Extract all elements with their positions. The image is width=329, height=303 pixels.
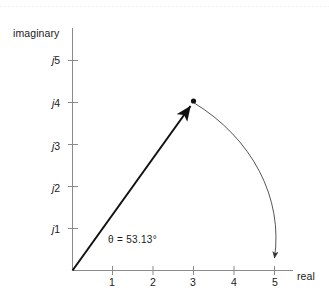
imaginary-tick-label-j4: j4: [52, 98, 60, 109]
complex-plane-figure: imaginary real j5 j4 j3 j2 j1 1 2 3 4 5 …: [0, 0, 329, 303]
rotation-arc: [194, 103, 276, 259]
imaginary-tick-label-j3: j3: [52, 141, 60, 152]
real-axis-title: real: [297, 271, 315, 282]
real-tick-label-5: 5: [272, 277, 278, 288]
real-tick-label-1: 1: [109, 277, 115, 288]
imaginary-axis-title: imaginary: [13, 28, 59, 39]
imaginary-tick-label-j1: j1: [52, 224, 60, 235]
imaginary-tick-label-j2: j2: [52, 183, 60, 194]
real-tick-label-4: 4: [231, 277, 237, 288]
angle-annotation: θ = 53.13°: [108, 235, 157, 245]
phasor-vector: [73, 106, 191, 271]
plot-canvas: [0, 0, 329, 303]
real-tick-label-2: 2: [150, 277, 156, 288]
real-tick-label-3: 3: [190, 277, 196, 288]
point-marker-3-j4: [191, 98, 196, 103]
imaginary-tick-label-j5: j5: [52, 55, 60, 66]
